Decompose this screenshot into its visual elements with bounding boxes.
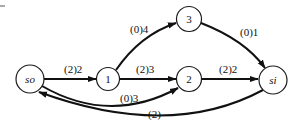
label-si-so: (2) [148, 108, 161, 121]
svg-text:2: 2 [186, 73, 192, 85]
node-so: so [16, 65, 44, 93]
label-so-2: (0)3 [120, 92, 139, 105]
node-1: 1 [97, 68, 120, 91]
label-1-2: (2)3 [136, 63, 155, 76]
node-2: 2 [177, 67, 202, 92]
label-so-1: (2)2 [64, 63, 82, 76]
label-1-3: (0)4 [130, 23, 149, 36]
svg-text:3: 3 [186, 13, 192, 25]
svg-text:1: 1 [105, 73, 111, 85]
node-si: si [259, 66, 287, 94]
svg-text:si: si [269, 74, 276, 86]
label-3-si: (0)1 [240, 26, 258, 39]
flow-network-diagram: so 1 3 2 si (2)2 (0)4 (2)3 (0)1 (2)2 (0)… [0, 0, 298, 131]
label-2-si: (2)2 [219, 63, 237, 76]
svg-text:so: so [25, 73, 35, 85]
node-3: 3 [177, 7, 202, 32]
